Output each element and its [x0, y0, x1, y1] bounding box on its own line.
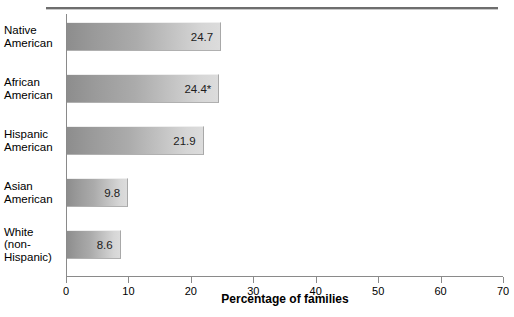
x-tick-70 — [503, 277, 504, 283]
category-label-line: American — [4, 193, 64, 206]
category-label-3: AsianAmerican — [4, 180, 64, 205]
x-tick-0 — [66, 277, 67, 283]
category-label-1: AfricanAmerican — [4, 76, 64, 101]
category-label-line: Hispanic — [4, 128, 64, 141]
category-label-2: HispanicAmerican — [4, 128, 64, 153]
cropped-heading-text — [48, 0, 168, 5]
plot-area: 010203040506070 24.724.4*21.99.88.6 — [66, 14, 504, 277]
category-label-line: Hispanic) — [4, 251, 64, 264]
category-label-0: NativeAmerican — [4, 24, 64, 49]
category-label-line: American — [4, 89, 64, 102]
top-divider-rule — [46, 7, 498, 9]
category-label-4: White(non-Hispanic) — [4, 226, 64, 264]
bar-1: 24.4* — [67, 74, 219, 103]
bar-value-label-0: 24.7 — [191, 31, 213, 43]
category-label-line: American — [4, 37, 64, 50]
x-tick-40 — [316, 277, 317, 283]
category-label-line: American — [4, 141, 64, 154]
x-tick-30 — [253, 277, 254, 283]
x-axis-line — [66, 276, 503, 277]
bar-3: 9.8 — [67, 178, 128, 207]
bar-value-label-4: 8.6 — [97, 239, 113, 251]
category-label-line: (non- — [4, 238, 64, 251]
bar-value-label-3: 9.8 — [104, 187, 120, 199]
category-label-line: White — [4, 226, 64, 239]
x-axis-title: Percentage of families — [66, 292, 504, 306]
bar-value-label-1: 24.4* — [184, 83, 211, 95]
x-tick-20 — [191, 277, 192, 283]
category-label-line: Native — [4, 24, 64, 37]
category-label-line: African — [4, 76, 64, 89]
x-tick-10 — [128, 277, 129, 283]
category-label-line: Asian — [4, 180, 64, 193]
x-tick-50 — [378, 277, 379, 283]
x-tick-60 — [441, 277, 442, 283]
bar-value-label-2: 21.9 — [173, 135, 195, 147]
bar-0: 24.7 — [67, 22, 221, 51]
bar-2: 21.9 — [67, 126, 204, 155]
bar-4: 8.6 — [67, 230, 121, 259]
